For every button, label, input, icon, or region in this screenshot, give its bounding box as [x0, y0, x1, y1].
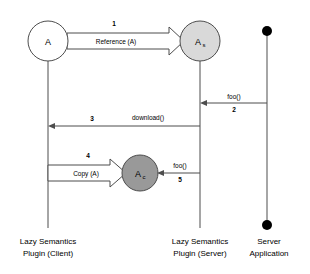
object-node-a-label: A: [45, 37, 51, 47]
message-foo-server-to-ac-label: foo(): [173, 162, 186, 170]
message-foo-server-to-ac: foo() 5: [157, 162, 200, 183]
sequence-diagram-svg: 1 Reference (A) foo() 2 3 download() 4 C…: [0, 0, 310, 274]
message-copy-a-number: 4: [86, 152, 90, 159]
lifeline-server-title-line2: Plugin (Server): [173, 249, 227, 258]
message-reference-a-label: Reference (A): [96, 38, 136, 46]
message-download-label: download(): [132, 114, 164, 122]
message-copy-a: 4 Copy (A): [48, 152, 126, 187]
message-foo-application-to-server: foo() 2: [200, 93, 267, 113]
lifelines-group: [48, 31, 267, 228]
message-foo-application-to-server-label: foo(): [227, 93, 240, 101]
message-reference-a-number: 1: [112, 20, 116, 27]
lifeline-server-title-line1: Lazy Semantics: [172, 237, 228, 246]
message-copy-a-label: Copy (A): [73, 170, 99, 178]
message-download-arrowhead: [48, 123, 55, 129]
lifeline-titles-group: Lazy Semantics Plugin (Client) Lazy Sema…: [20, 237, 289, 258]
message-download-number: 3: [90, 115, 94, 122]
message-reference-a: 1 Reference (A): [67, 20, 184, 55]
lifeline-client-title-line1: Lazy Semantics: [20, 237, 76, 246]
message-download: 3 download(): [48, 114, 200, 129]
message-foo-server-to-ac-number: 5: [178, 176, 182, 183]
message-foo-application-to-server-number: 2: [232, 106, 236, 113]
lifeline-application-title-line1: Server: [257, 237, 281, 246]
application-start-dot: [262, 26, 272, 36]
object-node-a-client-label: A: [135, 169, 141, 179]
object-node-a-server-label: A: [195, 37, 201, 47]
lifeline-client-title-line2: Plugin (Client): [23, 249, 74, 258]
application-end-dot: [262, 220, 272, 230]
message-foo-application-to-server-arrowhead: [200, 100, 207, 106]
lifeline-application-title-line2: Application: [249, 249, 288, 258]
object-node-a-client-subscript: c: [143, 174, 146, 180]
sequence-diagram-canvas: 1 Reference (A) foo() 2 3 download() 4 C…: [0, 0, 310, 274]
object-node-a-server-subscript: s: [203, 42, 206, 48]
